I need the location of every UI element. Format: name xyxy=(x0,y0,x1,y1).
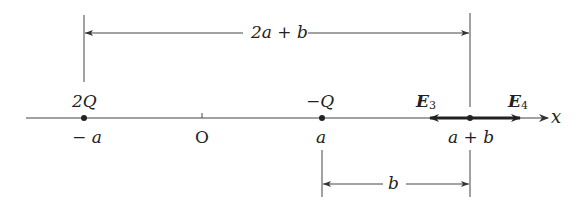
tick-label-origin: O xyxy=(195,129,209,146)
charge-2q-label: 2Q xyxy=(72,93,97,110)
e3-label: E3 xyxy=(416,93,436,111)
top-dimension-label: 2a + b xyxy=(251,24,308,41)
tick-label-a: a xyxy=(316,129,326,146)
e4-label: E4 xyxy=(508,93,528,111)
bottom-dimension-label: b xyxy=(388,175,399,192)
charge-2q-dot xyxy=(81,115,87,121)
charge-neg-q-dot xyxy=(319,115,325,121)
charge-neg-q-label: −Q xyxy=(306,93,334,110)
tick-label-neg-a: − a xyxy=(72,129,102,146)
x-axis-label: x xyxy=(551,108,561,126)
tick-label-a-plus-b: a + b xyxy=(448,129,494,146)
